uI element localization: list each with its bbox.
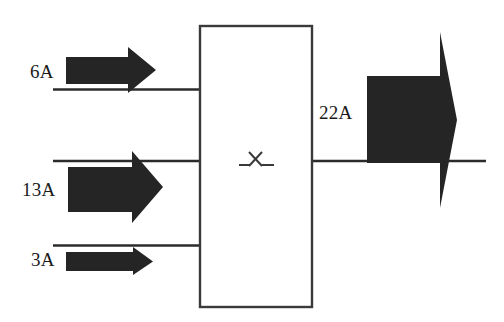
output-arrow-22a — [367, 32, 457, 208]
input-label-6a: 6A — [30, 62, 54, 81]
input-label-3a: 3A — [31, 250, 55, 269]
flow-diagram: 6A 13A 3A 22A — [0, 0, 504, 322]
output-label-22a: 22A — [319, 103, 352, 122]
input-arrow-6a — [66, 47, 156, 93]
input-label-13a: 13A — [22, 180, 55, 199]
process-box — [200, 26, 312, 307]
input-arrow-3a — [66, 247, 153, 275]
diagram-canvas — [0, 0, 504, 322]
